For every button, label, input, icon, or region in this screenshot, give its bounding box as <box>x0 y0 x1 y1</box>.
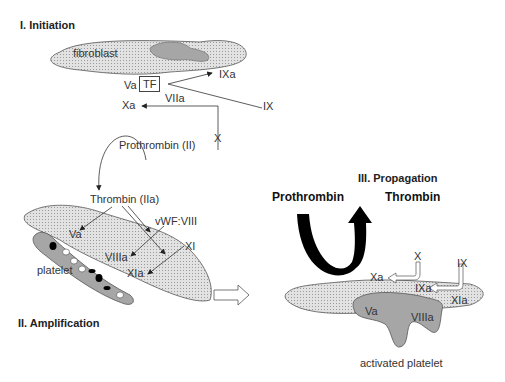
xia-propagation-label: XIa <box>451 295 468 306</box>
viia-label: VIIa <box>165 93 185 104</box>
propagation-title: III. Propagation <box>358 173 437 184</box>
ixa-label: IXa <box>219 69 236 80</box>
viiia-label: VIIIa <box>105 252 128 263</box>
amplification-title: II. Amplification <box>18 318 100 329</box>
xa-propagation-label: Xa <box>370 272 383 283</box>
tf-box: TF <box>139 76 160 92</box>
vwf-viii-label: vWF:VIII <box>155 216 197 227</box>
activated-platelet-label: activated platelet <box>360 358 443 369</box>
x-label: X <box>214 133 221 144</box>
initiation-title: I. Initiation <box>20 20 75 31</box>
thrombin-iia-label: Thrombin (IIa) <box>90 194 159 205</box>
transition-arrow <box>214 285 249 305</box>
prothrombin-ii-label: Prothrombin (II) <box>119 140 195 151</box>
ix-label: IX <box>263 101 273 112</box>
viiia-propagation-label: VIIIa <box>411 312 434 323</box>
xa-label: Xa <box>122 100 135 111</box>
prothrombin-to-thrombin-arrow <box>297 206 372 275</box>
prothrombin-label: Prothrombin <box>272 191 344 203</box>
ix-propagation-label: IX <box>457 258 467 269</box>
va-label: Va <box>124 80 137 91</box>
fibroblast-label: fibroblast <box>73 48 118 59</box>
thrombin-label: Thrombin <box>385 191 440 203</box>
xia-label: XIa <box>127 268 144 279</box>
platelet-label: platelet <box>37 265 72 276</box>
ixa-propagation-label: IXa <box>415 283 432 294</box>
va-propagation-label: Va <box>365 306 378 317</box>
x-to-xa-arrow <box>388 262 420 283</box>
xi-label: XI <box>185 241 195 252</box>
va-amplification-label: Va <box>69 229 82 240</box>
x-propagation-label: X <box>414 251 421 262</box>
